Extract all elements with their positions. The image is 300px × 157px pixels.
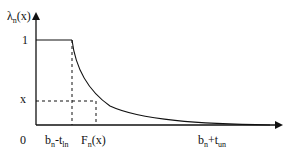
y-axis-label: λn(x)	[7, 10, 31, 27]
x-tick-bn-plus-tun: bn+tun	[198, 134, 226, 151]
y-tick-zero: 0	[20, 134, 26, 146]
decay-curve	[72, 40, 270, 125]
x-tick-Fn-x: Fn(x)	[81, 134, 106, 151]
y-tick-one: 1	[22, 34, 28, 46]
y-tick-x: x	[20, 93, 26, 105]
y-axis-label-rest: (x)	[17, 9, 31, 23]
x-tick-bn-minus-tln: bn-tln	[45, 134, 69, 151]
